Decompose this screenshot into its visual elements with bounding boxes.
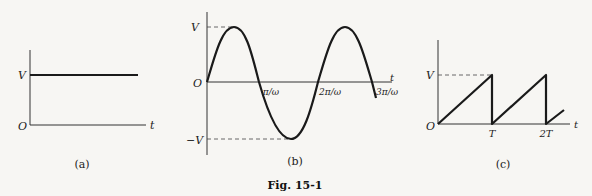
figure-caption: Fig. 15-1 — [268, 179, 323, 192]
panel-b: V O −V t π/ω 2π/ω 3π/ω (b) Fig. 15-1 — [186, 12, 399, 192]
sine-waveform — [207, 27, 376, 139]
tick-pi-over-omega: π/ω — [262, 87, 280, 97]
panel-caption: (c) — [496, 158, 511, 171]
origin-label: O — [426, 120, 435, 133]
y-label-v: V — [191, 21, 200, 34]
origin-label: O — [18, 120, 27, 133]
panel-caption: (a) — [74, 158, 89, 171]
y-label-v: V — [18, 69, 27, 82]
tick-2T: 2T — [538, 128, 553, 139]
x-label-t: t — [574, 119, 579, 130]
x-label-t: t — [390, 72, 395, 83]
origin-label: O — [193, 77, 202, 90]
tick-3pi-over-omega: 3π/ω — [376, 87, 399, 97]
figure-canvas: V O t (a) V O −V t π/ω 2π/ω 3π/ω (b) Fig… — [0, 0, 592, 196]
panel-caption: (b) — [287, 155, 303, 168]
sawtooth-waveform — [438, 75, 564, 124]
panel-c: V O t T 2T (c) — [426, 40, 579, 171]
tick-2pi-over-omega: 2π/ω — [318, 87, 342, 97]
tick-T: T — [489, 128, 497, 139]
y-label-v: V — [426, 69, 435, 82]
y-label-neg-v: −V — [186, 134, 204, 147]
panel-a: V O t (a) — [18, 50, 155, 171]
x-label-t: t — [150, 119, 155, 132]
